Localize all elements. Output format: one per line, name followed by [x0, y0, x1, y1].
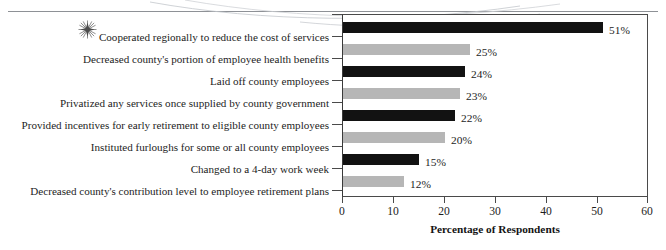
bar-2[interactable]	[343, 66, 465, 77]
y-axis-tick	[332, 58, 342, 59]
bar-6[interactable]	[343, 154, 419, 165]
category-label: Provided incentives for early retirement…	[0, 119, 329, 131]
x-axis-tick-label: 50	[577, 205, 617, 218]
bar-4[interactable]	[343, 110, 455, 121]
x-axis-tick	[342, 197, 343, 203]
bar-value-label: 20%	[451, 135, 472, 146]
y-axis-tick	[332, 124, 342, 125]
x-axis-tick	[495, 197, 496, 203]
bar-chart-figure: Cooperated regionally to reduce the cost…	[0, 0, 666, 250]
bar-value-label: 23%	[466, 91, 487, 102]
bar-value-label: 51%	[609, 25, 630, 36]
x-axis-tick	[393, 197, 394, 203]
starburst-icon	[78, 20, 97, 39]
category-label: Laid off county employees	[0, 75, 329, 87]
category-label: Cooperated regionally to reduce the cost…	[0, 31, 329, 43]
category-label: Changed to a 4-day work week	[0, 163, 329, 175]
page-horizontal-rule	[8, 11, 658, 12]
y-axis-tick	[332, 14, 342, 15]
y-axis-tick	[332, 36, 342, 37]
x-axis-tick-label: 40	[526, 205, 566, 218]
bar-value-label: 15%	[425, 157, 446, 168]
x-axis-title: Percentage of Respondents	[342, 223, 648, 235]
bar-value-label: 24%	[471, 69, 492, 80]
y-axis-tick	[332, 80, 342, 81]
bar-5[interactable]	[343, 132, 445, 143]
bar-value-label: 22%	[461, 113, 482, 124]
category-label-column: Cooperated regionally to reduce the cost…	[0, 14, 336, 197]
y-axis-tick	[332, 146, 342, 147]
x-axis-tick	[647, 197, 648, 203]
category-label: Instituted furloughs for some or all cou…	[0, 141, 329, 153]
bar-0[interactable]	[343, 22, 603, 33]
x-axis-tick	[444, 197, 445, 203]
category-label: Decreased county's portion of employee h…	[0, 53, 329, 65]
bar-value-label: 25%	[476, 47, 497, 58]
category-label: Decreased county's contribution level to…	[0, 185, 329, 197]
x-axis-tick-label: 30	[475, 205, 515, 218]
bars-layer	[343, 15, 648, 197]
y-axis-tick	[332, 190, 342, 191]
bar-3[interactable]	[343, 88, 460, 99]
x-axis-tick-label: 0	[322, 205, 362, 218]
bar-value-label: 12%	[410, 179, 431, 190]
x-axis-tick	[597, 197, 598, 203]
x-axis-tick	[546, 197, 547, 203]
x-axis-tick-label: 20	[424, 205, 464, 218]
y-axis-tick	[332, 168, 342, 169]
bar-1[interactable]	[343, 44, 470, 55]
x-axis-tick-label: 60	[627, 205, 666, 218]
category-label: Privatized any services once supplied by…	[0, 97, 329, 109]
bar-7[interactable]	[343, 176, 404, 187]
y-axis-tick	[332, 102, 342, 103]
x-axis-tick-label: 10	[373, 205, 413, 218]
